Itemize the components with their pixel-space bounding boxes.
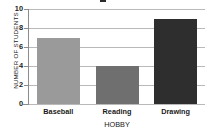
y-axis-tick-label: 6 xyxy=(1,43,23,50)
y-axis-tick-mark xyxy=(24,104,28,105)
y-axis-tick-mark xyxy=(24,28,28,29)
bar xyxy=(154,19,197,105)
x-axis-title: HOBBY xyxy=(29,120,205,129)
y-axis-tick-labels: 0246810 xyxy=(0,0,23,135)
y-axis-tick-label: 10 xyxy=(1,5,23,12)
y-axis-tick-label: 4 xyxy=(1,62,23,69)
bar xyxy=(96,66,139,104)
bar xyxy=(37,38,80,105)
gridline xyxy=(29,9,205,10)
x-axis-category-label: Drawing xyxy=(146,107,205,116)
y-axis-tick-label: 2 xyxy=(1,81,23,88)
plot-area xyxy=(29,9,205,104)
gridline xyxy=(29,104,205,105)
y-axis-tick-label: 8 xyxy=(1,24,23,31)
x-axis-category-label: Baseball xyxy=(29,107,88,116)
bar-chart-figure: NUMBER OF STUDENTS 0246810 HOBBY Basebal… xyxy=(0,0,208,135)
x-axis-category-label: Reading xyxy=(88,107,147,116)
y-axis-tick-mark xyxy=(24,9,28,10)
y-axis-tick-mark xyxy=(24,66,28,67)
y-axis-tick-label: 0 xyxy=(1,100,23,107)
y-axis-tick-mark xyxy=(24,47,28,48)
cropped-title-remnant xyxy=(100,0,106,2)
y-axis-tick-mark xyxy=(24,85,28,86)
